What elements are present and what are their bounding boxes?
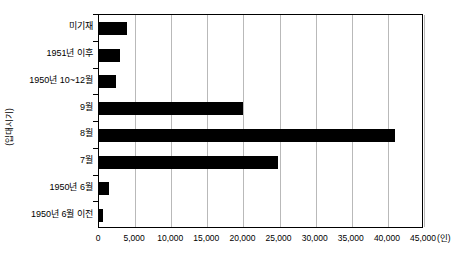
bar	[99, 75, 116, 88]
bar-item	[99, 182, 424, 195]
x-axis-tick-label: 25,000	[266, 233, 292, 243]
gridline	[424, 15, 425, 227]
bar	[99, 49, 120, 62]
bar	[99, 156, 278, 169]
bar-item	[99, 49, 424, 62]
x-axis-tick-label: 20,000	[229, 233, 255, 243]
x-axis-tick-label: 5,000	[123, 233, 144, 243]
y-axis-tick-label: 1950년 10~12월	[0, 76, 93, 85]
plot-area	[98, 14, 423, 228]
bar	[99, 129, 395, 142]
y-axis-title-text: (입대시기)	[4, 108, 14, 146]
y-axis-tick-label: 8월	[0, 129, 93, 138]
bar-item	[99, 156, 424, 169]
y-axis-tick-label: 9월	[0, 103, 93, 112]
x-axis-tick-label: 35,000	[338, 233, 364, 243]
y-axis-tick-label: 1950년 6월 이전	[0, 210, 93, 219]
x-axis-tick-label: 30,000	[302, 233, 328, 243]
x-axis-tick-labels: 05,00010,00015,00020,00025,00030,00035,0…	[0, 233, 470, 247]
bar	[99, 182, 109, 195]
bar	[99, 209, 103, 222]
bar	[99, 102, 243, 115]
y-axis-tick-label: 7월	[0, 156, 93, 165]
bar	[99, 22, 127, 35]
y-axis-tick-label: 1950년 6월	[0, 183, 93, 192]
bar-item	[99, 75, 424, 88]
x-axis-tick-label: 40,000	[374, 233, 400, 243]
x-axis-tick-label: 0	[96, 233, 101, 243]
bar-series	[99, 15, 422, 227]
y-axis-tick-label: 미기재	[0, 22, 93, 31]
x-axis-tick-label: 15,000	[193, 233, 219, 243]
bar-chart: (입대시기) 미기재1951년 이후1950년 10~12월9월8월7월1950…	[0, 0, 470, 267]
x-axis-unit-label: (인)	[437, 233, 451, 243]
x-axis-tick-label: 10,000	[157, 233, 183, 243]
bar-item	[99, 209, 424, 222]
bar-item	[99, 22, 424, 35]
y-axis-tick-label: 1951년 이후	[0, 49, 93, 58]
bar-item	[99, 129, 424, 142]
x-axis-tick-label: 45,000	[410, 233, 436, 243]
bar-item	[99, 102, 424, 115]
